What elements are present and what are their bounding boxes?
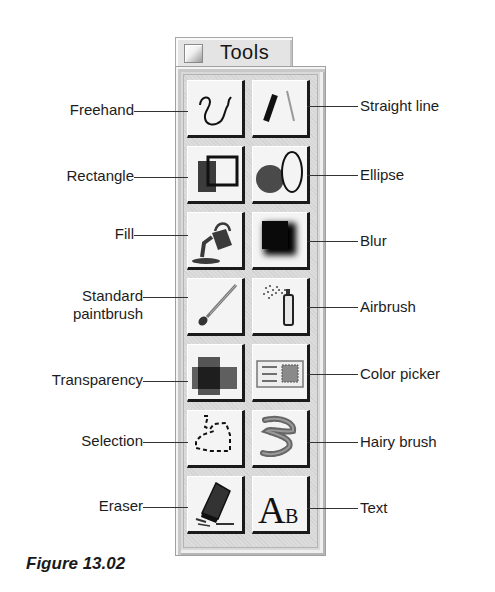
tool-transparency-button[interactable] xyxy=(187,344,245,402)
leader-eraser xyxy=(143,507,188,508)
label-blur: Blur xyxy=(360,232,387,249)
svg-text:A: A xyxy=(258,489,286,531)
label-standard-paintbrush-line2: paintbrush xyxy=(73,305,143,322)
eraser-icon xyxy=(188,477,243,532)
label-freehand: Freehand xyxy=(70,101,134,118)
blur-icon xyxy=(253,213,308,268)
label-color-picker: Color picker xyxy=(360,365,440,382)
palette-title: Tools xyxy=(220,41,269,64)
tool-hairy-brush-button[interactable] xyxy=(252,410,310,468)
tool-straight-line-button[interactable] xyxy=(252,80,310,138)
tool-text-button[interactable]: A B xyxy=(252,476,310,534)
tool-blur-button[interactable] xyxy=(252,212,310,270)
leader-airbrush xyxy=(307,307,358,308)
label-eraser: Eraser xyxy=(99,497,143,514)
ellipse-icon xyxy=(253,147,308,202)
label-transparency: Transparency xyxy=(52,371,143,388)
leader-fill xyxy=(134,235,188,236)
tool-fill-button[interactable] xyxy=(187,212,245,270)
label-airbrush: Airbrush xyxy=(360,298,416,315)
leader-rectangle xyxy=(134,177,188,178)
tool-eraser-button[interactable] xyxy=(187,476,245,534)
leader-straight-line xyxy=(307,106,358,107)
leader-hairy-brush xyxy=(307,442,358,443)
label-straight-line: Straight line xyxy=(360,97,439,114)
tool-selection-button[interactable] xyxy=(187,410,245,468)
label-ellipse: Ellipse xyxy=(360,166,404,183)
freehand-icon xyxy=(188,81,243,136)
tool-color-picker-button[interactable] xyxy=(252,344,310,402)
palette-window-icon[interactable] xyxy=(184,44,203,63)
leader-text xyxy=(307,508,358,509)
airbrush-icon xyxy=(253,279,308,334)
text-icon: A B xyxy=(253,477,308,532)
leader-standard-paintbrush xyxy=(143,297,188,298)
label-text: Text xyxy=(360,499,388,516)
leader-freehand xyxy=(134,111,188,112)
paintbrush-icon xyxy=(188,279,243,334)
label-rectangle: Rectangle xyxy=(66,167,134,184)
lasso-selection-icon xyxy=(188,411,243,466)
transparency-icon xyxy=(188,345,243,400)
paint-bucket-icon xyxy=(188,213,243,268)
palette-tab[interactable]: Tools xyxy=(175,37,293,68)
straight-line-icon xyxy=(253,81,308,136)
tool-freehand-button[interactable] xyxy=(187,80,245,138)
hairy-brush-icon xyxy=(253,411,308,466)
leader-ellipse xyxy=(307,175,358,176)
leader-selection xyxy=(143,442,188,443)
label-standard-paintbrush-line1: Standard xyxy=(82,287,143,304)
tool-rectangle-button[interactable] xyxy=(187,146,245,204)
svg-text:B: B xyxy=(285,505,298,527)
figure-caption: Figure 13.02 xyxy=(26,554,125,574)
label-selection: Selection xyxy=(81,432,143,449)
tool-standard-paintbrush-button[interactable] xyxy=(187,278,245,336)
label-hairy-brush: Hairy brush xyxy=(360,433,437,450)
leader-color-picker xyxy=(307,374,358,375)
tool-airbrush-button[interactable] xyxy=(252,278,310,336)
color-picker-icon xyxy=(253,345,308,400)
tool-ellipse-button[interactable] xyxy=(252,146,310,204)
rectangle-icon xyxy=(188,147,243,202)
label-fill: Fill xyxy=(115,225,134,242)
leader-transparency xyxy=(143,381,188,382)
leader-blur xyxy=(307,241,358,242)
